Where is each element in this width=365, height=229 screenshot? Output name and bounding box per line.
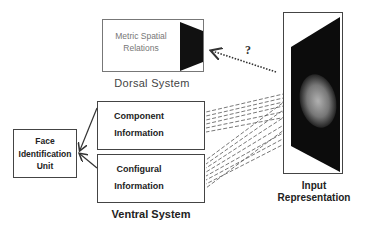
projection-lines (206, 92, 292, 188)
dorsal-box: Metric Spatial Relations (102, 19, 204, 72)
configural-box: Configural Information (97, 154, 205, 203)
ventral-system-label: Ventral System (92, 207, 210, 223)
face-identification-box: Face Identification Unit (13, 129, 77, 178)
configural-to-faceid-arrow (80, 154, 97, 168)
component-to-faceid-arrow (80, 108, 97, 150)
component-box: Component Information (97, 101, 205, 150)
question-mark: ? (242, 42, 254, 59)
dorsal-box-label: Metric Spatial Relations (107, 30, 175, 55)
component-box-label: Component Information (102, 108, 176, 142)
input-representation-box (283, 12, 343, 174)
dorsal-system-label: Dorsal System (96, 76, 208, 92)
configural-box-label: Configural Information (102, 161, 176, 195)
face-identification-label: Face Identification Unit (14, 135, 76, 173)
input-representation-label: Input Representation (272, 180, 356, 204)
face-processing-diagram: Metric Spatial Relations Dorsal System C… (0, 0, 365, 229)
